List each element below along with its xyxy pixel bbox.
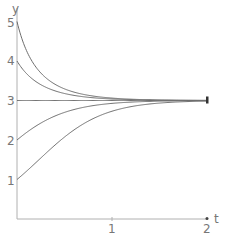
solution-curve-y0-5 [17, 22, 207, 101]
y-tick-label-2: 2 [7, 134, 15, 148]
chart: y t 1 2 5 4 3 2 1 [0, 0, 225, 238]
x-tick-label-2: 2 [203, 222, 211, 236]
equilibrium-end-marker [206, 97, 209, 104]
x-axis-label: t [214, 212, 219, 226]
x-tick-label-1: 1 [108, 222, 116, 236]
solution-curve-y0-2 [17, 101, 207, 140]
y-axis-label: y [12, 2, 19, 16]
solution-curve-y0-1 [17, 101, 207, 179]
solution-curves [17, 22, 207, 180]
y-tick-label-1: 1 [7, 174, 15, 188]
y-tick-label-4: 4 [7, 54, 15, 68]
x-axis-end-marker [206, 217, 209, 220]
y-tick-label-5: 5 [7, 16, 15, 30]
y-tick-label-3: 3 [7, 94, 15, 108]
solution-curve-y0-4 [17, 61, 207, 100]
